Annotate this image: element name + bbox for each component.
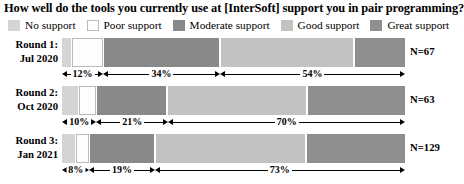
bar-row: Round 1:Jul 2020N=6712%34%54% xyxy=(0,37,442,83)
annotation-percent-label: 10% xyxy=(67,115,91,129)
bar-segment xyxy=(62,86,79,115)
annotation-arrow: 73% xyxy=(155,163,405,178)
legend-item: No support xyxy=(8,20,76,31)
row-label: Round 1:Jul 2020 xyxy=(0,38,58,65)
bar-segment xyxy=(103,38,220,67)
legend-item: Moderate support xyxy=(173,20,270,31)
arrow-left-icon xyxy=(103,71,108,77)
arrow-left-icon xyxy=(168,119,173,125)
legend-item: Great support xyxy=(370,20,449,31)
row-label-round: Round 1: xyxy=(16,38,58,50)
annotation-arrow: 12% xyxy=(62,67,103,82)
bar-segment xyxy=(220,38,354,67)
row-label-date: Jul 2020 xyxy=(0,52,58,66)
legend-swatch-icon xyxy=(8,20,20,31)
annotation-arrow: 8% xyxy=(62,163,89,178)
arrow-left-icon xyxy=(96,119,101,125)
sample-size-label: N=63 xyxy=(410,93,435,105)
stacked-bar xyxy=(62,38,405,67)
bar-segment xyxy=(155,134,306,163)
bar-segment xyxy=(62,134,76,163)
sample-size-label: N=129 xyxy=(410,141,440,153)
annotation-arrow: 21% xyxy=(96,115,168,130)
annotation-percent-label: 54% xyxy=(300,67,324,81)
annotation-band: 10%21%70% xyxy=(62,115,405,130)
bar-segment xyxy=(167,86,306,115)
annotation-arrow: 10% xyxy=(62,115,96,130)
legend-swatch-icon xyxy=(370,20,382,31)
bar-row: Round 2:Oct 2020N=6310%21%70% xyxy=(0,85,442,131)
annotation-band: 12%34%54% xyxy=(62,67,405,82)
legend: No supportPoor supportModerate supportGo… xyxy=(8,19,438,32)
legend-swatch-icon xyxy=(173,20,185,31)
arrow-left-icon xyxy=(155,167,160,173)
bar-segment xyxy=(354,38,405,67)
annotation-percent-label: 70% xyxy=(275,115,299,129)
annotation-percent-label: 8% xyxy=(66,163,85,177)
legend-label: Great support xyxy=(387,20,449,31)
stacked-bar xyxy=(62,134,405,163)
bar-segment xyxy=(89,134,154,163)
row-label: Round 3:Jan 2021 xyxy=(0,134,58,161)
legend-label: Poor support xyxy=(104,20,162,31)
sample-size-label: N=67 xyxy=(410,45,435,57)
arrow-left-icon xyxy=(62,71,67,77)
annotation-arrow: 19% xyxy=(89,163,154,178)
legend-item: Good support xyxy=(281,20,360,31)
bar-segment xyxy=(306,134,405,163)
legend-swatch-icon xyxy=(281,20,293,31)
annotation-band: 8%19%73% xyxy=(62,163,405,178)
row-label: Round 2:Oct 2020 xyxy=(0,86,58,113)
legend-label: Moderate support xyxy=(190,20,270,31)
arrow-right-icon xyxy=(400,71,405,77)
row-label-round: Round 3: xyxy=(16,134,58,146)
bar-segment xyxy=(62,38,72,67)
arrow-right-icon xyxy=(400,119,405,125)
chart-title: How well do the tools you currently use … xyxy=(4,1,440,16)
bar-segment xyxy=(307,86,405,115)
row-label-round: Round 2: xyxy=(16,86,58,98)
legend-label: No support xyxy=(25,20,76,31)
bar-segment xyxy=(72,38,103,67)
stacked-bar xyxy=(62,86,405,115)
arrow-right-icon xyxy=(400,167,405,173)
legend-item: Poor support xyxy=(87,20,162,31)
arrow-left-icon xyxy=(89,167,94,173)
row-label-date: Oct 2020 xyxy=(0,100,58,114)
annotation-arrow: 34% xyxy=(103,67,220,82)
annotation-percent-label: 12% xyxy=(71,67,95,81)
bar-segment xyxy=(76,134,90,163)
row-label-date: Jan 2021 xyxy=(0,148,58,162)
bar-row: Round 3:Jan 2021N=1298%19%73% xyxy=(0,133,442,179)
annotation-arrow: 54% xyxy=(220,67,405,82)
annotation-arrow: 70% xyxy=(168,115,405,130)
annotation-percent-label: 34% xyxy=(149,67,173,81)
arrow-left-icon xyxy=(220,71,225,77)
bar-segment xyxy=(79,86,96,115)
legend-swatch-icon xyxy=(87,20,99,31)
annotation-percent-label: 73% xyxy=(268,163,292,177)
bar-segment xyxy=(96,86,167,115)
annotation-percent-label: 19% xyxy=(110,163,134,177)
annotation-percent-label: 21% xyxy=(120,115,144,129)
legend-label: Good support xyxy=(298,20,360,31)
